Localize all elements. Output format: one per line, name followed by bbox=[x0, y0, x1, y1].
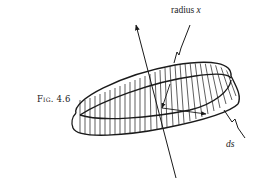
ds-label: ds bbox=[226, 139, 234, 149]
figure-caption: Fig. 4.6 bbox=[37, 94, 71, 104]
radius-label-text: radius bbox=[171, 5, 194, 15]
ds-leader bbox=[224, 110, 245, 138]
radius-label: radius x bbox=[171, 5, 201, 15]
radius-leader bbox=[174, 25, 190, 63]
figure-caption-number: 4.6 bbox=[56, 94, 70, 104]
figure-caption-prefix: Fig. bbox=[37, 94, 54, 104]
radius-label-var: x bbox=[197, 5, 201, 15]
